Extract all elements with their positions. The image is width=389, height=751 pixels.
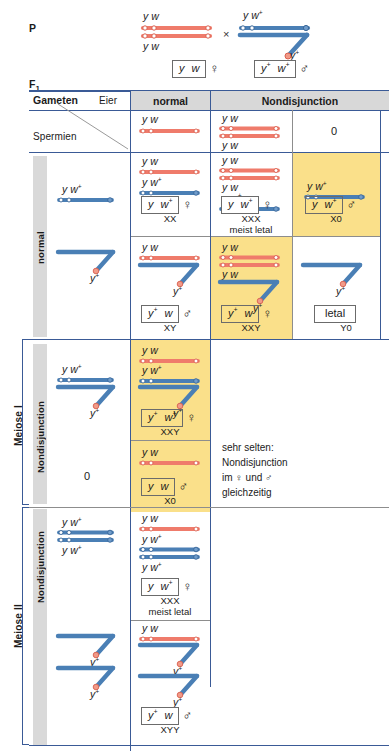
bracket-label-meiose-2: Meiose II [12, 585, 24, 667]
result-box-xx: yw+♀ [141, 196, 192, 214]
cell-xx-x-chromosome-red [138, 168, 204, 176]
cell-xx-label-2: y w+ [142, 176, 162, 188]
result-box-xxy-m1: y+w+♀ [141, 409, 196, 427]
sperm-row1-x-chromosome [56, 196, 118, 204]
divider-right-edge [380, 110, 381, 339]
egg-nondisjunction-top-label: y w [222, 112, 238, 124]
cell-y0-y-gene-label: y+ [336, 285, 345, 297]
cell-xy-y-gene-label: y+ [173, 285, 182, 297]
sperm-m1-row2-zero: 0 [84, 470, 90, 482]
group-label-nondisjunction-2: Nondisjunction [33, 510, 47, 625]
karyotype-xxx-m2: XXX [135, 595, 205, 606]
father-top-allele-label: y w+ [243, 9, 263, 21]
karyotype-xxy-m1: XXY [135, 426, 205, 437]
mother-top-allele-label: y w [143, 10, 159, 22]
cell-xxy-m1-label-1: y w [142, 344, 158, 356]
karyotype-x0-m1: X0 [135, 495, 205, 506]
female-symbol: ♀ [209, 62, 219, 75]
result-box-xy: y+w♂ [141, 305, 192, 323]
cell-xxx-m2-label-2: y w+ [142, 533, 162, 545]
sperm-m1-row1-label: y w+ [62, 363, 82, 375]
note-xxx-m2-lethal: meist letal [135, 606, 205, 617]
cell-xxy-m1-label-2: y w+ [142, 364, 162, 376]
karyotype-y0: Y0 [311, 322, 381, 333]
mother-bottom-allele-label: y w [143, 40, 159, 52]
egg-nullo-zero: 0 [331, 125, 337, 137]
cell-xxx-m2-label-3: y w+ [142, 561, 162, 573]
karyotype-xxx: XXX [216, 213, 286, 224]
sperm-m2-y-gene-label-2: y+ [90, 688, 99, 700]
sperm-m1-y-gene-label: y+ [90, 407, 99, 419]
cell-x0-label: y w+ [307, 180, 327, 192]
corner-diagonal-divider [56, 102, 132, 152]
egg-nondisjunction-bottom-label: y w [222, 139, 238, 151]
cell-xxx-m2-x-red [138, 525, 204, 533]
egg-normal-x-chromosome [138, 127, 204, 135]
cell-xxx-m2-label-1: y w [142, 512, 158, 524]
cell-x0-m1-label: y w [142, 446, 158, 458]
group-label-nondisjunction-1: Nondisjunction [33, 380, 47, 495]
group-label-normal: normal [33, 200, 47, 295]
cell-xy-label: y w [142, 241, 158, 253]
karyotype-xx: XX [135, 213, 205, 224]
cell-x0-m1-x-chromosome [138, 459, 204, 467]
note-xxx-lethal: meist letal [216, 224, 286, 235]
cell-xxx-m2-x-pair-blue [138, 546, 204, 562]
cell-xx-label-1: y w [142, 155, 158, 167]
karyotype-xyy: XYY [135, 724, 205, 735]
karyotype-x0: X0 [301, 213, 371, 224]
column-header-nondisjunction: Nondisjunction [211, 91, 389, 110]
result-box-xyy: y+w♂ [141, 707, 192, 725]
divider-normal-nondisjunction [210, 90, 211, 687]
sperm-row2-y-gene-label: y+ [90, 272, 99, 284]
divider-xxy-y0 [292, 237, 293, 339]
row-sep-m2 [131, 620, 210, 621]
father-gamete-box: y+w+ ♂ [254, 60, 309, 78]
result-box-y0: letal [314, 305, 356, 323]
result-box-xxy: y+w♀ [221, 305, 272, 323]
bracket-label-meiose-1: Meiose I [12, 385, 24, 465]
male-symbol: ♂ [299, 62, 309, 75]
sperm-row1-label: y w+ [62, 183, 82, 195]
p-generation-label: P [29, 22, 36, 34]
side-note: sehr selten: Nondisjunction im ♀ und ♂ g… [222, 440, 288, 500]
table-bottom-border [29, 745, 389, 746]
group-sep-m1-m2 [29, 507, 389, 508]
cross-symbol: × [223, 28, 229, 40]
mother-gamete-box: yw ♀ [172, 60, 219, 78]
sperm-m2-row1-label-bottom: y w+ [62, 544, 82, 556]
result-box-x0-m1: yw♂ [141, 478, 188, 496]
result-box-xxx: yw+♀ [221, 196, 272, 214]
row-sep-normal-1 [131, 236, 210, 237]
result-box-xxx-m2: yw+♀ [141, 578, 192, 596]
cell-xxy-label: y w [222, 241, 238, 253]
cell-xxx-label-1: y w [222, 154, 238, 166]
sperm-m2-x-pair [56, 529, 118, 545]
karyotype-xxy: XXY [216, 322, 286, 333]
result-box-x0: yw+♂ [305, 196, 356, 214]
column-header-normal: normal [131, 91, 210, 110]
cell-xyy-label: y w [142, 622, 158, 634]
sperm-m2-row1-label-top: y w+ [62, 516, 82, 528]
karyotype-xy: XY [135, 322, 205, 333]
egg-normal-label: y w [142, 113, 158, 125]
